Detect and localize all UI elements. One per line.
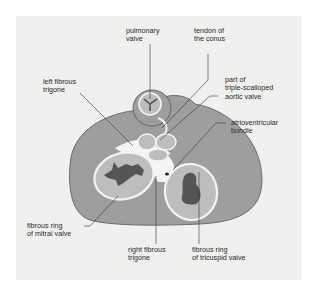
label-aortic-valve: part of triple-scalloped aortic valve bbox=[225, 76, 273, 101]
label-fibrous-ring-tricuspid: fibrous ring of tricuspid valve bbox=[192, 246, 246, 263]
label-right-fibrous-trigone: right fibrous trigone bbox=[128, 246, 166, 263]
aortic-cusp-posterior bbox=[148, 149, 168, 161]
label-pulmonary-valve: pulmonary valve bbox=[126, 27, 160, 44]
aortic-cusp-right bbox=[156, 134, 176, 150]
aortic-cusp-left bbox=[138, 134, 156, 150]
label-tendon-of-conus: tendon of the conus bbox=[194, 27, 225, 44]
label-left-fibrous-trigone: left fibrous trigone bbox=[43, 78, 76, 95]
label-atrioventricular-bundle: atrioventricular bundle bbox=[231, 119, 278, 136]
label-fibrous-ring-mitral: fibrous ring of mitral valve bbox=[27, 222, 71, 239]
av-bundle bbox=[165, 173, 169, 176]
